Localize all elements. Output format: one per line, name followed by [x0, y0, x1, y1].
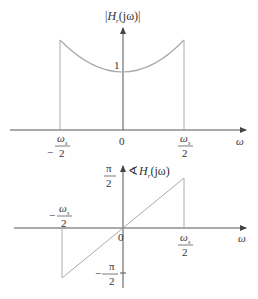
- magnitude-left-tick-label: ω s − 2: [47, 132, 70, 159]
- level-one-label: 1: [114, 59, 120, 71]
- phase-y-label: ∢Hr(jω): [128, 164, 170, 180]
- phase-origin-label: 0: [118, 231, 124, 243]
- svg-text:s: s: [188, 140, 191, 146]
- svg-text:ω: ω: [59, 202, 67, 214]
- svg-text:s: s: [65, 140, 68, 146]
- phase-top-tick-label: π 2: [104, 162, 116, 189]
- svg-text:2: 2: [106, 177, 112, 189]
- magnitude-plot: |Hr(jω)| 1 0 ω ω s − 2 ω s 2: [10, 9, 246, 159]
- svg-text:2: 2: [59, 147, 65, 159]
- svg-text:−: −: [47, 146, 53, 158]
- svg-text:2: 2: [109, 275, 115, 287]
- phase-x-label: ω: [238, 232, 246, 244]
- phase-right-tick-label: ω s 2: [178, 231, 193, 258]
- svg-text:−: −: [95, 267, 101, 279]
- svg-text:π: π: [109, 260, 115, 272]
- phase-bottom-tick-label: π − 2: [95, 260, 118, 287]
- magnitude-curve: [60, 40, 184, 72]
- svg-text:−: −: [49, 209, 55, 221]
- svg-text:ω: ω: [57, 132, 65, 144]
- svg-text:s: s: [67, 210, 70, 216]
- diagram-canvas: |Hr(jω)| 1 0 ω ω s − 2 ω s 2 ∢Hr(jω): [0, 0, 258, 299]
- phase-left-tick-label: ω s − 2: [49, 202, 72, 229]
- magnitude-right-tick-label: ω s 2: [178, 132, 193, 159]
- svg-text:π: π: [106, 162, 112, 174]
- svg-text:ω: ω: [180, 132, 188, 144]
- magnitude-x-label: ω: [236, 135, 244, 147]
- magnitude-y-label: |Hr(jω)|: [105, 9, 140, 25]
- svg-text:s: s: [188, 239, 191, 245]
- magnitude-origin-label: 0: [119, 135, 125, 147]
- phase-plot: ∢Hr(jω) π 2 π − 2 0 ω ω s − 2 ω s 2: [14, 162, 246, 288]
- svg-text:2: 2: [182, 147, 188, 159]
- svg-text:ω: ω: [180, 231, 188, 243]
- svg-text:2: 2: [182, 246, 188, 258]
- svg-text:2: 2: [61, 217, 67, 229]
